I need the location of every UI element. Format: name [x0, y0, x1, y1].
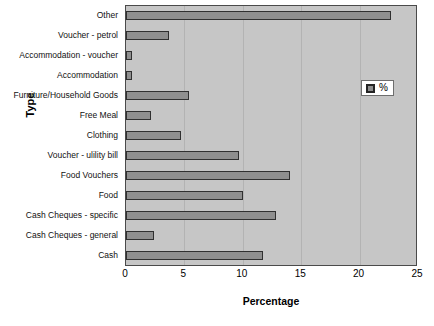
- y-axis-tick-label: Other: [6, 5, 122, 25]
- bar-slot: [126, 26, 416, 46]
- bar: [126, 171, 290, 180]
- legend: %: [361, 80, 394, 96]
- plot-area: [125, 5, 417, 266]
- bar-slot: [126, 6, 416, 26]
- bar-slot: [126, 106, 416, 126]
- x-axis-tick-label: 10: [236, 268, 247, 280]
- bar: [126, 131, 181, 140]
- x-axis-tick-label: 0: [122, 268, 128, 280]
- bar: [126, 211, 276, 220]
- y-axis-tick-label: Voucher - ulility bill: [6, 146, 122, 166]
- bar: [126, 251, 263, 260]
- x-axis-tick-label: 5: [181, 268, 187, 280]
- bar: [126, 71, 132, 80]
- bar: [126, 191, 243, 200]
- y-axis-tick-label: Cash Cheques - general: [6, 226, 122, 246]
- y-axis-tick-label: Voucher - petrol: [6, 25, 122, 45]
- bar-slot: [126, 145, 416, 165]
- y-axis-tick-label: Cash Cheques - specific: [6, 206, 122, 226]
- y-axis-tick-label: Furniture/Household Goods: [6, 85, 122, 105]
- bar-slot: [126, 225, 416, 245]
- bar: [126, 151, 239, 160]
- bar-chart: Type OtherVoucher - petrolAccommodation …: [0, 0, 434, 326]
- bar: [126, 11, 391, 20]
- bar-slot: [126, 245, 416, 265]
- y-axis-tick-label: Food Vouchers: [6, 166, 122, 186]
- x-axis-tick-labels: 0510152025: [125, 268, 417, 282]
- legend-swatch-percent: [366, 84, 375, 93]
- bar: [126, 31, 169, 40]
- y-axis-tick-label: Accommodation: [6, 65, 122, 85]
- y-axis-tick-label: Food: [6, 186, 122, 206]
- bar-slot: [126, 185, 416, 205]
- bar: [126, 51, 132, 60]
- x-axis-tick-label: 20: [353, 268, 364, 280]
- y-axis-tick-label: Cash: [6, 246, 122, 266]
- y-axis-tick-label: Free Meal: [6, 105, 122, 125]
- y-axis-tick-labels: OtherVoucher - petrolAccommodation - vou…: [6, 5, 122, 266]
- bar: [126, 91, 189, 100]
- x-axis-tick-label: 25: [411, 268, 422, 280]
- bar-slot: [126, 46, 416, 66]
- bar-slot: [126, 165, 416, 185]
- x-axis-tick-label: 15: [295, 268, 306, 280]
- bar-series: [126, 6, 416, 265]
- x-axis-title: Percentage: [125, 295, 417, 307]
- bar: [126, 111, 151, 120]
- bar-slot: [126, 205, 416, 225]
- y-axis-tick-label: Clothing: [6, 125, 122, 145]
- legend-label-percent: %: [379, 83, 388, 93]
- bar-slot: [126, 126, 416, 146]
- y-axis-tick-label: Accommodation - voucher: [6, 45, 122, 65]
- bar: [126, 231, 154, 240]
